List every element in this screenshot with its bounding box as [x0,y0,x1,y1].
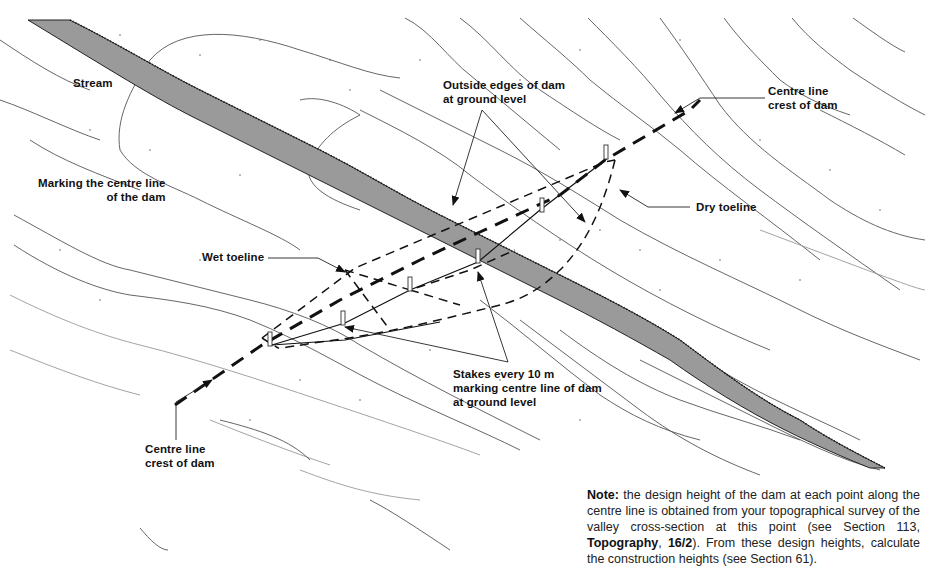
label-marking-line-2: of the dam [38,190,166,204]
label-marking-centre-line: Marking the centre line of the dam [38,176,166,204]
note-text-2: , [658,536,668,550]
label-centre-line-bottom: Centre line crest of dam [145,442,215,470]
note-lead: Note: [587,488,619,502]
stake-3 [408,277,412,291]
label-stream: Stream [73,76,113,90]
dam-outline [262,160,615,348]
label-centre-line-bottom-1: Centre line [145,442,215,456]
stake-4 [476,249,480,263]
label-stakes: Stakes every 10 m marking centre line of… [453,367,602,409]
note-ref-topography: Topography [587,536,658,550]
label-marking-line-1: Marking the centre line [38,176,166,190]
label-centre-line-bottom-2: crest of dam [145,456,215,470]
note-paragraph: Note: the design height of the dam at ea… [587,487,920,567]
label-stakes-line-3: at ground level [453,395,602,409]
stake-5 [540,198,544,212]
label-centre-line-top-2: crest of dam [768,98,838,112]
label-stakes-line-2: marking centre line of dam [453,381,602,395]
note-ref-16-2: 16/2 [668,536,692,550]
note-text-1: the design height of the dam at each poi… [587,488,920,534]
label-centre-line-top-1: Centre line [768,84,838,98]
stake-6 [604,145,608,159]
stake-1 [268,332,272,346]
label-outside-edges-line-2: at ground level [443,92,565,106]
label-stakes-line-1: Stakes every 10 m [453,367,602,381]
stake-2 [341,311,345,325]
label-centre-line-top: Centre line crest of dam [768,84,838,112]
label-outside-edges-line-1: Outside edges of dam [443,78,565,92]
label-wet-toeline: Wet toeline [202,250,264,264]
label-outside-edges: Outside edges of dam at ground level [443,78,565,106]
label-dry-toeline: Dry toeline [696,200,757,214]
